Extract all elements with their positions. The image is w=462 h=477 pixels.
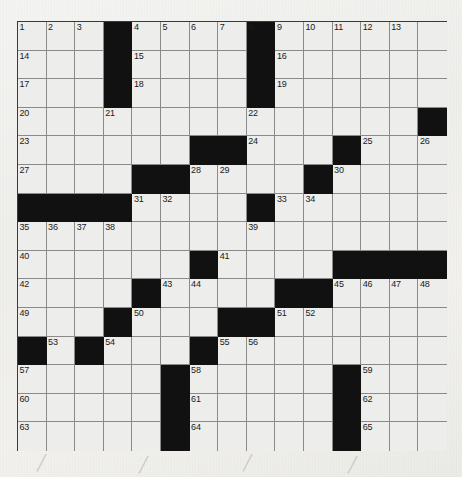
- grid-cell[interactable]: [390, 422, 419, 451]
- grid-cell[interactable]: [104, 136, 133, 165]
- grid-cell[interactable]: [333, 194, 362, 223]
- grid-cell[interactable]: [390, 136, 419, 165]
- grid-cell[interactable]: 45: [333, 279, 362, 308]
- grid-cell[interactable]: [304, 365, 333, 394]
- grid-cell[interactable]: 9: [275, 22, 304, 51]
- grid-cell[interactable]: [75, 136, 104, 165]
- grid-cell[interactable]: [275, 422, 304, 451]
- grid-cell[interactable]: [47, 79, 76, 108]
- grid-cell[interactable]: [390, 394, 419, 423]
- grid-cell[interactable]: [418, 22, 447, 51]
- grid-cell[interactable]: 52: [304, 308, 333, 337]
- grid-cell[interactable]: [361, 194, 390, 223]
- grid-cell[interactable]: 41: [218, 251, 247, 280]
- grid-cell[interactable]: [161, 79, 190, 108]
- grid-cell[interactable]: [361, 108, 390, 137]
- grid-cell[interactable]: [190, 51, 219, 80]
- grid-cell[interactable]: [247, 165, 276, 194]
- grid-cell[interactable]: [75, 365, 104, 394]
- grid-cell[interactable]: 51: [275, 308, 304, 337]
- grid-cell[interactable]: [390, 51, 419, 80]
- grid-cell[interactable]: [75, 51, 104, 80]
- grid-cell[interactable]: 38: [104, 222, 133, 251]
- grid-cell[interactable]: [247, 365, 276, 394]
- grid-cell[interactable]: [390, 365, 419, 394]
- grid-cell[interactable]: [190, 79, 219, 108]
- grid-cell[interactable]: 6: [190, 22, 219, 51]
- grid-cell[interactable]: [304, 422, 333, 451]
- grid-cell[interactable]: 62: [361, 394, 390, 423]
- grid-cell[interactable]: [47, 279, 76, 308]
- grid-cell[interactable]: 40: [18, 251, 47, 280]
- grid-cell[interactable]: [247, 251, 276, 280]
- grid-cell[interactable]: [75, 394, 104, 423]
- grid-cell[interactable]: [390, 79, 419, 108]
- grid-cell[interactable]: [104, 165, 133, 194]
- grid-cell[interactable]: [304, 79, 333, 108]
- grid-cell[interactable]: 22: [247, 108, 276, 137]
- grid-cell[interactable]: 49: [18, 308, 47, 337]
- grid-cell[interactable]: [218, 79, 247, 108]
- grid-cell[interactable]: [361, 337, 390, 366]
- grid-cell[interactable]: 1: [18, 22, 47, 51]
- grid-cell[interactable]: [47, 422, 76, 451]
- grid-cell[interactable]: [47, 51, 76, 80]
- grid-cell[interactable]: [418, 365, 447, 394]
- grid-cell[interactable]: 12: [361, 22, 390, 51]
- grid-cell[interactable]: [275, 394, 304, 423]
- grid-cell[interactable]: [333, 337, 362, 366]
- grid-cell[interactable]: 14: [18, 51, 47, 80]
- grid-cell[interactable]: [275, 136, 304, 165]
- grid-cell[interactable]: [247, 422, 276, 451]
- grid-cell[interactable]: [333, 108, 362, 137]
- grid-cell[interactable]: [418, 337, 447, 366]
- grid-cell[interactable]: [47, 365, 76, 394]
- grid-cell[interactable]: [304, 394, 333, 423]
- grid-cell[interactable]: [132, 136, 161, 165]
- grid-cell[interactable]: [304, 337, 333, 366]
- grid-cell[interactable]: 44: [190, 279, 219, 308]
- grid-cell[interactable]: [47, 165, 76, 194]
- grid-cell[interactable]: 15: [132, 51, 161, 80]
- grid-cell[interactable]: [104, 394, 133, 423]
- grid-cell[interactable]: [418, 422, 447, 451]
- grid-cell[interactable]: 20: [18, 108, 47, 137]
- grid-cell[interactable]: 28: [190, 165, 219, 194]
- grid-cell[interactable]: [132, 422, 161, 451]
- grid-cell[interactable]: [304, 51, 333, 80]
- grid-cell[interactable]: 16: [275, 51, 304, 80]
- grid-cell[interactable]: [390, 165, 419, 194]
- grid-cell[interactable]: [418, 194, 447, 223]
- grid-cell[interactable]: [361, 51, 390, 80]
- grid-cell[interactable]: [390, 194, 419, 223]
- grid-cell[interactable]: 42: [18, 279, 47, 308]
- grid-cell[interactable]: 35: [18, 222, 47, 251]
- grid-cell[interactable]: [333, 308, 362, 337]
- grid-cell[interactable]: 61: [190, 394, 219, 423]
- grid-cell[interactable]: [161, 51, 190, 80]
- grid-cell[interactable]: 60: [18, 394, 47, 423]
- grid-cell[interactable]: [304, 108, 333, 137]
- grid-cell[interactable]: [418, 308, 447, 337]
- grid-cell[interactable]: [390, 337, 419, 366]
- grid-cell[interactable]: [75, 79, 104, 108]
- grid-cell[interactable]: [47, 136, 76, 165]
- grid-cell[interactable]: 57: [18, 365, 47, 394]
- grid-cell[interactable]: [75, 279, 104, 308]
- grid-cell[interactable]: [104, 279, 133, 308]
- grid-cell[interactable]: 65: [361, 422, 390, 451]
- grid-cell[interactable]: 47: [390, 279, 419, 308]
- grid-cell[interactable]: 4: [132, 22, 161, 51]
- grid-cell[interactable]: [190, 194, 219, 223]
- grid-cell[interactable]: [75, 165, 104, 194]
- grid-cell[interactable]: [304, 222, 333, 251]
- grid-cell[interactable]: 21: [104, 108, 133, 137]
- grid-cell[interactable]: 25: [361, 136, 390, 165]
- grid-cell[interactable]: [418, 165, 447, 194]
- grid-cell[interactable]: [218, 394, 247, 423]
- grid-cell[interactable]: 46: [361, 279, 390, 308]
- grid-cell[interactable]: [47, 308, 76, 337]
- crossword-grid[interactable]: 1234567891011121314151617181920212223242…: [17, 21, 447, 451]
- grid-cell[interactable]: [190, 308, 219, 337]
- grid-cell[interactable]: [361, 79, 390, 108]
